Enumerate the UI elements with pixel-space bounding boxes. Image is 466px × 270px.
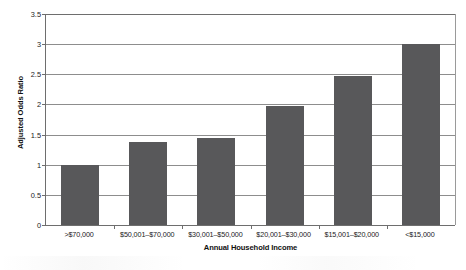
x-axis-tick-label: $20,001–$30,000: [250, 230, 318, 239]
y-axis-title: Adjusted Odds Ratio: [16, 48, 25, 178]
bar-slot: [182, 14, 250, 225]
x-axis-tick-label: >$70,000: [45, 230, 113, 239]
bar-slot: [251, 14, 319, 225]
x-axis-tick-label: $50,001–$70,000: [113, 230, 181, 239]
x-axis-tick-labels: >$70,000$50,001–$70,000$30,001–$50,000$2…: [45, 230, 456, 244]
x-axis-tick-label: $30,001–$50,000: [181, 230, 249, 239]
x-axis-tick-mark: [114, 225, 115, 229]
bar-slot: [319, 14, 387, 225]
x-axis-tick-mark: [387, 225, 388, 229]
y-axis-tick-label: 2: [37, 100, 41, 109]
y-axis-tick-mark: [42, 225, 46, 226]
bar-slot: [387, 14, 455, 225]
bar: [129, 142, 167, 225]
x-axis-tick-mark: [182, 225, 183, 229]
x-axis-tick-label: <$15,000: [386, 230, 454, 239]
y-axis-tick-label: 3: [37, 40, 41, 49]
bar: [334, 76, 372, 225]
x-axis-tick-mark: [319, 225, 320, 229]
bar-chart-figure: Adjusted Odds Ratio 00.511.522.533.5 >$7…: [0, 0, 466, 270]
y-axis-tick-label: 0.5: [31, 190, 41, 199]
bar: [61, 165, 99, 225]
bar: [266, 106, 304, 225]
bars-group: [46, 14, 455, 225]
y-axis-tick-label: 2.5: [31, 70, 41, 79]
bar: [402, 44, 440, 225]
y-axis-tick-label: 0: [37, 221, 41, 230]
x-axis-title: Annual Household Income: [45, 243, 456, 252]
y-axis-tick-label: 3.5: [31, 10, 41, 19]
y-axis-tick-label: 1.5: [31, 130, 41, 139]
scan-artifact: [0, 256, 466, 270]
y-axis-tick-label: 1: [37, 160, 41, 169]
x-axis-tick-label: $15,001–$20,000: [318, 230, 386, 239]
plot-area: 00.511.522.533.5: [45, 14, 456, 225]
bar-slot: [114, 14, 182, 225]
x-axis-tick-mark: [251, 225, 252, 229]
bar-slot: [46, 14, 114, 225]
bar: [197, 138, 235, 225]
